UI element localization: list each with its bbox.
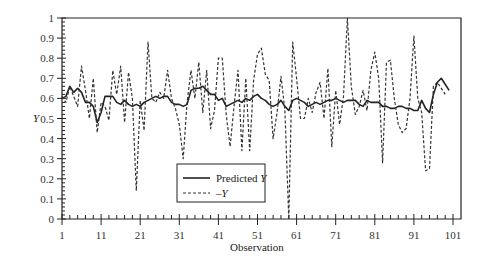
x-tick-label: 41 [213,229,224,241]
x-tick-label: 51 [252,229,263,241]
legend-label-predicted: Predicted Y [216,172,268,184]
x-tick-label: 81 [369,229,380,241]
legend-label-neg-y: –Y [215,187,230,199]
x-tick-label: 31 [174,229,185,241]
y-tick-label: 0.8 [40,52,54,64]
x-tick-label: 21 [135,229,146,241]
x-tick-label: 1 [59,229,65,241]
y-tick-label: 1 [49,12,55,24]
x-axis-title: Observation [230,241,284,253]
x-tick-label: 101 [445,229,462,241]
y-tick-label: 0.9 [40,32,54,44]
y-tick-label: 0.7 [40,72,54,84]
legend: Predicted Y –Y [177,164,268,202]
x-tick-label: 11 [96,229,107,241]
y-tick-label: 0 [49,213,55,225]
y-tick-label: 0.1 [40,193,54,205]
y-tick-label: 0.3 [40,153,54,165]
x-tick-label: 91 [408,229,419,241]
x-tick-label: 71 [330,229,341,241]
series-predicted-y [62,78,449,122]
y-tick-label: 0.5 [40,113,54,125]
line-chart: 00.10.20.30.40.50.60.70.80.91 1112131415… [0,0,481,266]
x-axis: 1112131415161718191101 [59,214,461,241]
y-tick-label: 0.4 [40,133,54,145]
x-tick-label: 61 [291,229,302,241]
y-tick-label: 0.2 [40,173,54,185]
y-tick-label: 0.6 [40,92,54,104]
